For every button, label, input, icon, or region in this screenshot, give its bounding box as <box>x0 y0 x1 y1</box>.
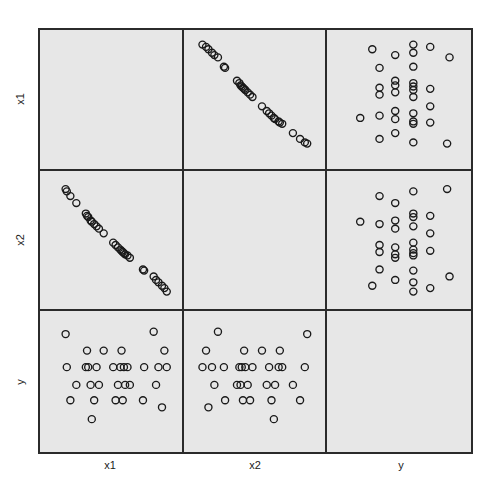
data-point <box>376 220 383 227</box>
data-point <box>114 382 121 389</box>
data-point <box>271 382 278 389</box>
data-point <box>376 192 383 199</box>
data-point <box>199 364 206 371</box>
data-point <box>392 52 399 59</box>
data-point <box>427 103 434 110</box>
data-point <box>376 135 383 142</box>
data-point <box>427 230 434 237</box>
data-point <box>91 397 98 404</box>
panel-x2-x2 <box>184 171 328 312</box>
data-point <box>357 218 364 225</box>
data-point <box>67 192 74 199</box>
data-point <box>427 85 434 92</box>
data-point <box>444 185 451 192</box>
row-axis-label-y: y <box>13 374 27 390</box>
scatterplot-matrix: x1 x2 y x1 x2 y <box>0 0 499 486</box>
data-point <box>214 329 221 336</box>
panel-plot-area-x2-y <box>327 171 471 310</box>
data-point <box>446 273 453 280</box>
data-point <box>410 41 417 48</box>
data-point <box>427 119 434 126</box>
data-point <box>303 331 310 338</box>
data-point <box>83 347 90 354</box>
data-point <box>410 288 417 295</box>
data-point <box>163 364 170 371</box>
panel-x1-y <box>327 30 471 171</box>
panel-plot-area-x2-x2 <box>184 171 326 310</box>
data-point <box>427 212 434 219</box>
data-point <box>153 382 160 389</box>
data-point <box>392 244 399 251</box>
panel-plot-area-y-y <box>327 311 471 452</box>
data-point <box>161 347 168 354</box>
column-axis-label-x2: x2 <box>225 458 285 472</box>
data-point <box>240 347 247 354</box>
data-point <box>73 382 80 389</box>
data-point <box>289 382 296 389</box>
data-point <box>158 404 165 411</box>
data-point <box>62 331 69 338</box>
panel-y-x1 <box>40 311 184 452</box>
data-point <box>112 397 119 404</box>
data-point <box>270 416 277 423</box>
data-point <box>202 347 209 354</box>
data-point <box>392 89 399 96</box>
data-point <box>427 247 434 254</box>
data-point <box>376 64 383 71</box>
data-point <box>392 217 399 224</box>
row-axis-label-x2: x2 <box>13 232 27 248</box>
data-point <box>446 54 453 61</box>
data-point <box>119 397 126 404</box>
data-point <box>87 382 94 389</box>
data-point <box>289 130 296 137</box>
data-point <box>376 241 383 248</box>
data-point <box>210 382 217 389</box>
data-point <box>410 110 417 117</box>
data-point <box>239 397 246 404</box>
data-point <box>62 185 69 192</box>
data-point <box>118 347 125 354</box>
data-point <box>376 112 383 119</box>
panel-y-x2 <box>184 311 328 452</box>
data-point <box>100 347 107 354</box>
data-point <box>410 49 417 56</box>
data-point <box>376 266 383 273</box>
data-point <box>427 284 434 291</box>
data-point <box>141 364 148 371</box>
panel-plot-area-y-x2 <box>184 311 326 452</box>
data-point <box>410 63 417 70</box>
data-point <box>369 282 376 289</box>
data-point <box>73 199 80 206</box>
data-point <box>392 225 399 232</box>
data-point <box>410 223 417 230</box>
data-point <box>301 364 308 371</box>
panel-plot-area-y-x1 <box>40 311 182 452</box>
data-point <box>376 84 383 91</box>
data-point <box>392 82 399 89</box>
data-point <box>296 397 303 404</box>
data-point <box>303 140 310 147</box>
panel-x1-x2 <box>184 30 328 171</box>
data-point <box>392 108 399 115</box>
data-point <box>357 114 364 121</box>
panel-x1-x1 <box>40 30 184 171</box>
data-point <box>110 364 117 371</box>
data-point <box>63 364 70 371</box>
data-point <box>410 139 417 146</box>
data-point <box>376 248 383 255</box>
data-point <box>392 199 399 206</box>
data-point <box>263 382 270 389</box>
data-point <box>244 382 251 389</box>
data-point <box>220 364 227 371</box>
panel-plot-area-x2-x1 <box>40 171 182 310</box>
data-point <box>246 397 253 404</box>
data-point <box>221 397 228 404</box>
data-point <box>410 278 417 285</box>
data-point <box>88 416 95 423</box>
panel-x2-y <box>327 171 471 312</box>
data-point <box>258 347 265 354</box>
data-point <box>150 329 157 336</box>
data-point <box>268 397 275 404</box>
panel-y-y <box>327 311 471 452</box>
panel-plot-area-x1-y <box>327 30 471 169</box>
